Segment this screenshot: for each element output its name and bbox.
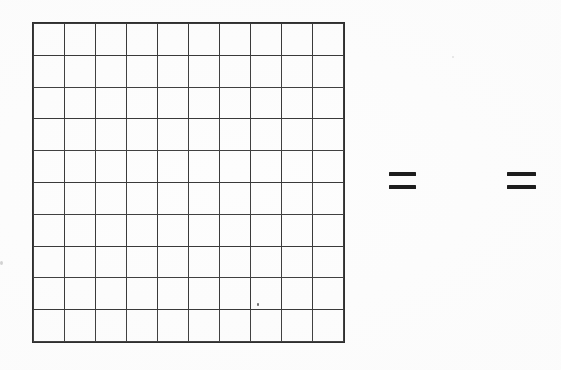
grid-cell[interactable] — [282, 214, 313, 246]
grid-cell[interactable] — [189, 55, 220, 87]
grid-cell[interactable] — [251, 151, 282, 183]
grid-cell[interactable] — [34, 55, 65, 87]
grid-cell[interactable] — [282, 310, 313, 342]
grid-cell[interactable] — [189, 214, 220, 246]
grid-cell[interactable] — [34, 24, 65, 56]
grid-cell[interactable] — [251, 278, 282, 310]
grid-cell[interactable] — [127, 214, 158, 246]
grid-cell[interactable] — [313, 310, 344, 342]
grid-cell[interactable] — [158, 182, 189, 214]
grid-cell[interactable] — [65, 55, 96, 87]
grid-cell[interactable] — [65, 310, 96, 342]
grid-cell[interactable] — [220, 246, 251, 278]
grid-cell[interactable] — [313, 87, 344, 119]
grid-cell[interactable] — [65, 246, 96, 278]
grid-cell[interactable] — [127, 246, 158, 278]
grid-cell[interactable] — [189, 182, 220, 214]
grid-cell[interactable] — [34, 119, 65, 151]
grid-cell[interactable] — [127, 278, 158, 310]
grid-cell[interactable] — [96, 214, 127, 246]
grid-cell[interactable] — [220, 151, 251, 183]
grid-cell[interactable] — [189, 87, 220, 119]
grid-cell[interactable] — [251, 87, 282, 119]
grid-cell[interactable] — [189, 119, 220, 151]
grid-cell[interactable] — [34, 182, 65, 214]
grid-cell[interactable] — [158, 87, 189, 119]
grid-cell[interactable] — [65, 151, 96, 183]
grid-cell[interactable] — [220, 87, 251, 119]
grid-cell[interactable] — [282, 24, 313, 56]
grid-cell[interactable] — [251, 119, 282, 151]
grid-cell[interactable] — [251, 246, 282, 278]
grid-cell[interactable] — [158, 246, 189, 278]
grid-cell[interactable] — [251, 214, 282, 246]
grid-cell[interactable] — [34, 151, 65, 183]
grid-cell[interactable] — [282, 246, 313, 278]
grid-cell[interactable] — [158, 151, 189, 183]
grid-cell[interactable] — [189, 310, 220, 342]
grid-cell[interactable] — [220, 182, 251, 214]
grid-cell[interactable] — [313, 246, 344, 278]
grid-cell[interactable] — [65, 87, 96, 119]
grid-cell[interactable] — [96, 24, 127, 56]
grid-cell[interactable] — [189, 24, 220, 56]
grid-cell[interactable] — [96, 87, 127, 119]
grid-cell[interactable] — [34, 214, 65, 246]
grid-cell[interactable] — [251, 24, 282, 56]
grid-cell[interactable] — [65, 182, 96, 214]
grid-cell[interactable] — [189, 246, 220, 278]
grid-cell[interactable] — [313, 151, 344, 183]
grid-cell[interactable] — [220, 55, 251, 87]
grid-cell[interactable] — [96, 119, 127, 151]
grid-cell[interactable] — [34, 87, 65, 119]
grid-cell[interactable] — [34, 246, 65, 278]
grid-cell[interactable] — [220, 214, 251, 246]
grid-cell[interactable] — [282, 278, 313, 310]
grid-cell[interactable] — [282, 87, 313, 119]
grid-cell[interactable] — [34, 278, 65, 310]
grid-cell[interactable] — [158, 310, 189, 342]
grid-cell[interactable] — [282, 55, 313, 87]
grid-cell[interactable] — [251, 55, 282, 87]
grid-cell[interactable] — [127, 55, 158, 87]
grid-cell[interactable] — [127, 119, 158, 151]
grid-cell[interactable] — [127, 87, 158, 119]
grid-cell[interactable] — [127, 24, 158, 56]
grid-cell[interactable] — [313, 55, 344, 87]
grid-cell[interactable] — [220, 278, 251, 310]
grid-cell[interactable] — [127, 151, 158, 183]
grid-cell[interactable] — [313, 278, 344, 310]
grid-cell[interactable] — [96, 310, 127, 342]
grid-cell[interactable] — [282, 182, 313, 214]
grid-cell[interactable] — [34, 310, 65, 342]
grid-cell[interactable] — [158, 24, 189, 56]
grid-cell[interactable] — [313, 119, 344, 151]
grid-cell[interactable] — [65, 214, 96, 246]
grid-cell[interactable] — [65, 24, 96, 56]
grid-cell[interactable] — [96, 182, 127, 214]
grid-cell[interactable] — [158, 278, 189, 310]
grid-cell[interactable] — [313, 182, 344, 214]
grid-cell[interactable] — [189, 278, 220, 310]
grid-cell[interactable] — [96, 278, 127, 310]
grid-cell[interactable] — [313, 24, 344, 56]
grid-cell[interactable] — [158, 55, 189, 87]
grid-cell[interactable] — [313, 214, 344, 246]
grid-cell[interactable] — [220, 119, 251, 151]
grid-cell[interactable] — [127, 182, 158, 214]
grid-cell[interactable] — [65, 119, 96, 151]
grid-cell[interactable] — [220, 24, 251, 56]
grid-cell[interactable] — [251, 310, 282, 342]
grid-cell[interactable] — [65, 278, 96, 310]
grid-cell[interactable] — [220, 310, 251, 342]
grid-cell[interactable] — [96, 151, 127, 183]
grid-cell[interactable] — [251, 182, 282, 214]
grid-cell[interactable] — [282, 119, 313, 151]
grid-cell[interactable] — [127, 310, 158, 342]
grid-cell[interactable] — [158, 119, 189, 151]
grid-cell[interactable] — [96, 246, 127, 278]
grid-cell[interactable] — [189, 151, 220, 183]
grid-cell[interactable] — [96, 55, 127, 87]
grid-cell[interactable] — [158, 214, 189, 246]
grid-cell[interactable] — [282, 151, 313, 183]
